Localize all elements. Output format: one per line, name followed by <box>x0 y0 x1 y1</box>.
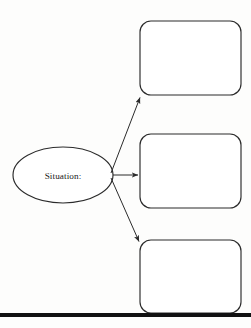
node-box-top[interactable] <box>140 21 241 95</box>
diagram-page: Situation: <box>0 0 251 328</box>
arrow-to-top-box[interactable] <box>111 98 140 174</box>
situation-label: Situation: <box>45 171 82 181</box>
box-top-shape <box>140 21 241 95</box>
node-box-bottom[interactable] <box>140 240 241 313</box>
node-situation[interactable]: Situation: <box>13 147 113 203</box>
box-bottom-shape <box>140 240 241 313</box>
node-box-middle[interactable] <box>140 134 241 208</box>
arrow-to-bottom-box[interactable] <box>111 178 139 242</box>
box-middle-shape <box>140 134 241 208</box>
graphic-organizer-canvas: Situation: <box>0 0 251 328</box>
